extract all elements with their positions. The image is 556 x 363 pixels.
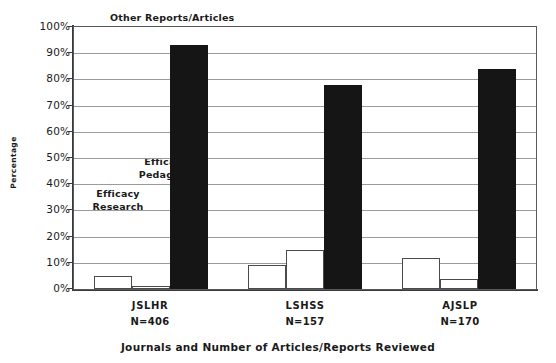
- annotation-efficacy-research: Efficacy Research: [72, 187, 164, 213]
- y-tick-mark-50: [67, 157, 73, 158]
- y-tick-mark-40: [67, 183, 73, 184]
- plot-area: Efficacy Pedagogy Efficacy Research: [73, 26, 537, 290]
- y-tick-label-20: 20%: [8, 230, 70, 242]
- gridline-90: [74, 53, 536, 54]
- gridline-80: [74, 79, 536, 80]
- category-count-ajslp: N=170: [405, 316, 515, 327]
- y-tick-label-50: 50%: [8, 151, 70, 163]
- y-tick-mark-60: [67, 131, 73, 132]
- category-name-lshss: LSHSS: [286, 300, 325, 311]
- gridline-70: [74, 106, 536, 107]
- bar-jslhr-efficacy-pedagogy: [132, 286, 170, 289]
- y-tick-mark-100: [67, 26, 73, 27]
- y-axis-tick-labels: 0%10%20%30%40%50%60%70%80%90%100%: [0, 0, 70, 363]
- bar-ajslp-other-reports-articles: [478, 69, 516, 289]
- y-tick-label-100: 100%: [8, 20, 70, 32]
- y-tick-label-10: 10%: [8, 256, 70, 268]
- y-tick-label-40: 40%: [8, 177, 70, 189]
- y-tick-mark-70: [67, 105, 73, 106]
- bar-lshss-other-reports-articles: [324, 85, 362, 289]
- y-tick-label-90: 90%: [8, 46, 70, 58]
- category-count-jslhr: N=406: [95, 316, 205, 327]
- chart-canvas: Percentage 0%10%20%30%40%50%60%70%80%90%…: [0, 0, 556, 363]
- y-tick-mark-0: [67, 288, 73, 289]
- y-tick-label-80: 80%: [8, 72, 70, 84]
- y-tick-mark-10: [67, 262, 73, 263]
- category-count-lshss: N=157: [250, 316, 360, 327]
- category-label-ajslp: AJSLP N=170: [405, 300, 515, 327]
- category-name-jslhr: JSLHR: [132, 300, 168, 311]
- chart-title: Other Reports/Articles: [110, 12, 234, 23]
- bar-jslhr-efficacy-research: [94, 276, 132, 289]
- y-tick-mark-20: [67, 236, 73, 237]
- category-name-ajslp: AJSLP: [442, 300, 477, 311]
- bar-lshss-efficacy-pedagogy: [286, 250, 324, 289]
- y-tick-label-70: 70%: [8, 99, 70, 111]
- y-tick-label-0: 0%: [8, 282, 70, 294]
- annotation-research-line1: Efficacy: [96, 188, 139, 199]
- gridline-30: [74, 210, 536, 211]
- y-tick-mark-30: [67, 209, 73, 210]
- category-label-lshss: LSHSS N=157: [250, 300, 360, 327]
- y-tick-mark-90: [67, 52, 73, 53]
- bar-ajslp-efficacy-pedagogy: [440, 279, 478, 289]
- bar-ajslp-efficacy-research: [402, 258, 440, 289]
- category-label-jslhr: JSLHR N=406: [95, 300, 205, 327]
- gridline-60: [74, 132, 536, 133]
- y-tick-mark-80: [67, 78, 73, 79]
- bar-jslhr-other-reports-articles: [170, 45, 208, 289]
- y-tick-label-30: 30%: [8, 203, 70, 215]
- x-axis-title: Journals and Number of Articles/Reports …: [0, 341, 556, 353]
- gridline-50: [74, 158, 536, 159]
- y-tick-label-60: 60%: [8, 125, 70, 137]
- bar-lshss-efficacy-research: [248, 265, 286, 289]
- gridline-20: [74, 237, 536, 238]
- gridline-40: [74, 184, 536, 185]
